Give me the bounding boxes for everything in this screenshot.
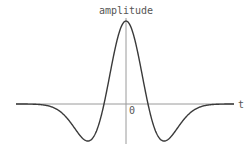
wavelet-curve — [16, 21, 234, 141]
y-axis-label: amplitude — [99, 5, 153, 16]
origin-label: 0 — [129, 105, 135, 116]
wavelet-diagram: amplitude t 0 — [0, 0, 251, 151]
x-axis-label: t — [238, 99, 244, 110]
